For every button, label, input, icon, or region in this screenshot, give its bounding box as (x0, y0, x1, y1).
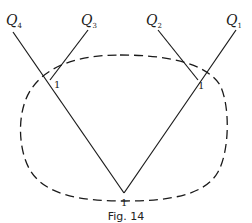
leaf-label-q3: Q3 (81, 12, 97, 30)
edge-q1-to-root (124, 30, 236, 193)
vertex-label-bottom: 1 (121, 197, 127, 208)
leaf-label-q2: Q2 (146, 12, 162, 30)
edge-q3-to-left-vertex (50, 30, 88, 80)
vertex-label-right: 1 (198, 80, 204, 91)
leaf-label-q1: Q1 (226, 12, 242, 30)
tree-diagram: Q4 Q3 Q2 Q1 1 1 1 Fig. 14 (0, 0, 252, 223)
edge-q2-to-right-vertex (158, 30, 198, 80)
leaf-label-q4: Q4 (6, 12, 22, 30)
figure-caption: Fig. 14 (108, 210, 145, 223)
vertex-label-left: 1 (54, 79, 60, 90)
